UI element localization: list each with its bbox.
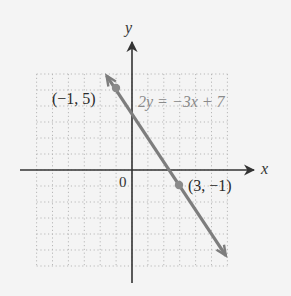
equation-label: 2y = −3x + 7 <box>138 93 226 111</box>
point-3-neg1 <box>175 181 183 189</box>
point-label-neg1-5: (−1, 5) <box>52 90 96 108</box>
y-axis-label: y <box>123 19 133 37</box>
origin-label: 0 <box>119 174 127 190</box>
x-axis-label: x <box>260 160 268 177</box>
graph: x y 0 (−1, 5) (3, −1) 2y = −3x + 7 <box>0 0 291 296</box>
point-neg1-5 <box>112 84 120 92</box>
point-label-3-neg1: (3, −1) <box>188 177 232 195</box>
